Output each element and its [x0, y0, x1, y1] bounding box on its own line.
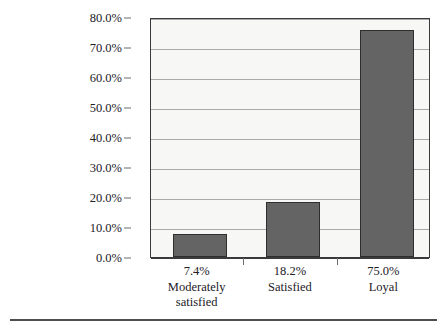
bar-chart-figure: 80.0%70.0%60.0%50.0%40.0%30.0%20.0%10.0%… — [0, 0, 447, 328]
bar — [266, 202, 320, 258]
category-name-label: satisfied — [150, 295, 243, 311]
category-name-label: Moderately — [150, 280, 243, 296]
bar — [173, 234, 227, 257]
y-tick-mark — [124, 18, 131, 19]
y-tick-mark — [124, 108, 131, 109]
y-axis-tick-marks — [0, 18, 150, 258]
x-category-label: 7.4%Moderatelysatisfied — [150, 264, 243, 311]
y-tick-mark — [124, 258, 131, 259]
bar — [360, 30, 414, 257]
category-name-label: Loyal — [337, 280, 430, 296]
category-name-label: Satisfied — [243, 280, 336, 296]
y-tick-mark — [124, 228, 131, 229]
plot-area — [150, 18, 430, 258]
y-tick-mark — [124, 48, 131, 49]
x-category-label: 75.0%Loyal — [337, 264, 430, 295]
y-tick-mark — [124, 168, 131, 169]
category-value-label: 18.2% — [243, 264, 336, 280]
y-tick-mark — [124, 198, 131, 199]
category-value-label: 75.0% — [337, 264, 430, 280]
x-category-label: 18.2%Satisfied — [243, 264, 336, 295]
y-tick-mark — [124, 78, 131, 79]
gridline — [151, 19, 429, 20]
x-axis-category-labels: 7.4%Moderatelysatisfied18.2%Satisfied75.… — [150, 264, 430, 316]
y-tick-mark — [124, 138, 131, 139]
category-value-label: 7.4% — [150, 264, 243, 280]
page-divider-rule — [10, 319, 437, 321]
